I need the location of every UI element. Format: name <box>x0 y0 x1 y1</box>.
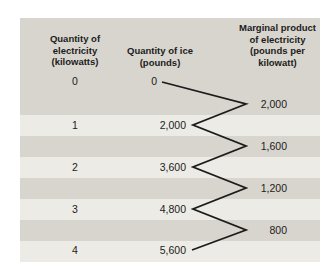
ice-value: 3,600 <box>116 159 186 175</box>
header-marginal-product: Marginal product of electricity (pounds … <box>225 22 330 68</box>
electricity-value: 3 <box>35 201 115 217</box>
marginal-product-value: 800 <box>227 222 287 238</box>
electricity-value: 2 <box>35 159 115 175</box>
ice-value: 5,600 <box>116 242 186 258</box>
marginal-product-table: Quantity of electricity (kilowatts) Quan… <box>20 18 320 262</box>
header-quantity-ice: Quantity of ice (pounds) <box>110 45 210 68</box>
ice-value: 2,000 <box>116 117 186 133</box>
marginal-product-value: 1,600 <box>227 138 287 154</box>
marginal-product-value: 2,000 <box>227 96 287 112</box>
electricity-value: 4 <box>35 242 115 258</box>
marginal-product-value: 1,200 <box>227 180 287 196</box>
marginal-product-figure: Quantity of electricity (kilowatts) Quan… <box>0 0 332 275</box>
electricity-value: 1 <box>35 117 115 133</box>
ice-value: 4,800 <box>116 201 186 217</box>
ice-value: 0 <box>87 73 157 89</box>
